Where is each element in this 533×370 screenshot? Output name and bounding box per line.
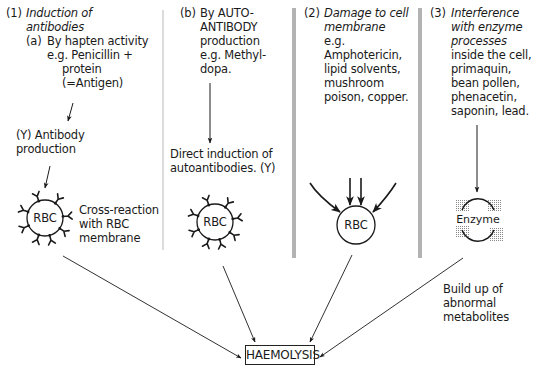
- rbc-label-3: RBC: [336, 218, 376, 232]
- enzyme-label: Enzyme: [453, 213, 503, 226]
- diagram-graphics: [0, 0, 533, 370]
- rbc-label-1: RBC: [25, 211, 65, 225]
- divider-thick-2: [418, 8, 422, 258]
- divider-thick-1: [292, 8, 296, 258]
- haemolysis-box: HAEMOLYSIS: [245, 345, 315, 365]
- rbc-label-2: RBC: [195, 215, 235, 229]
- rbc-cell-damage: [310, 178, 396, 244]
